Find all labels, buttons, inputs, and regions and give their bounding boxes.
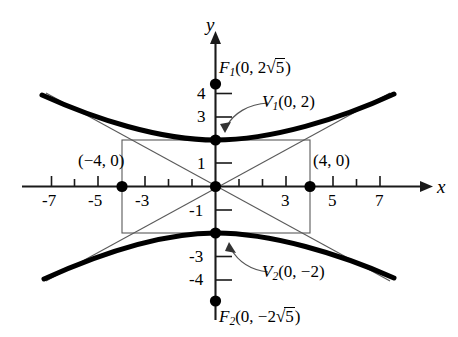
focus-top-name: F: [219, 58, 229, 77]
focus-top-label: F1(0, 2√5): [219, 57, 291, 79]
x-tick-label-5: 5: [328, 192, 337, 209]
y-tick-label-3: 3: [197, 108, 206, 125]
x-tick-label-3: 3: [281, 192, 290, 209]
vertex-bottom-name: V: [262, 262, 272, 281]
vertex-bottom-leader-arrowhead: [225, 242, 236, 253]
x-tick-label-neg7: -7: [42, 192, 56, 209]
vertex-top-leader-arrowhead: [220, 122, 231, 133]
y-tick-label-neg4: -4: [189, 271, 203, 288]
x-tick-label-neg3: -3: [135, 192, 149, 209]
point-focus-bottom: [210, 295, 221, 306]
vertex-top-name: V: [262, 92, 272, 111]
vertex-bottom-label: V2(0, −2): [262, 263, 325, 283]
point-vertex-bottom: [210, 227, 221, 238]
y-tick-label-neg3: -3: [189, 248, 203, 265]
covertex-right-label: (4, 0): [313, 152, 350, 169]
point-vertex-top: [210, 134, 221, 145]
graph-canvas: [0, 0, 458, 337]
y-axis-label: y: [206, 15, 214, 34]
x-axis-arrowhead: [420, 181, 433, 192]
x-tick-label-neg5: -5: [88, 192, 102, 209]
point-focus-top: [210, 78, 221, 89]
focus-top-radical: √5: [266, 57, 285, 76]
vertex-top-coords: (0, 2): [278, 92, 315, 111]
focus-bottom-coords-suffix: ): [295, 307, 301, 326]
x-axis-label: x: [437, 177, 445, 196]
focus-bottom-name: F: [219, 307, 229, 326]
x-tick-label-7: 7: [375, 192, 384, 209]
point-origin: [210, 181, 221, 192]
focus-top-coords-suffix: ): [285, 58, 291, 77]
focus-top-coords-prefix: (0, 2: [235, 58, 266, 77]
vertex-bottom-coords: (0, −2): [278, 262, 324, 281]
y-tick-label-neg1: -1: [189, 202, 203, 219]
focus-bottom-coords-prefix: (0, −2: [235, 307, 276, 326]
y-tick-label-1: 1: [197, 155, 206, 172]
hyperbola-figure: y x -7 -5 -3 3 5 7 4 3 1 -1 -3 -4 (−4, 0…: [0, 0, 458, 337]
focus-top-radicand: 5: [275, 58, 286, 76]
covertex-left-label: (−4, 0): [78, 152, 124, 169]
focus-bottom-radical: √5: [276, 306, 295, 325]
y-tick-label-4: 4: [197, 85, 206, 102]
focus-bottom-label: F2(0, −2√5): [219, 306, 300, 328]
point-covertex-right: [304, 181, 315, 192]
vertex-top-label: V1(0, 2): [262, 93, 315, 113]
focus-bottom-radicand: 5: [284, 307, 295, 325]
point-covertex-left: [116, 181, 127, 192]
